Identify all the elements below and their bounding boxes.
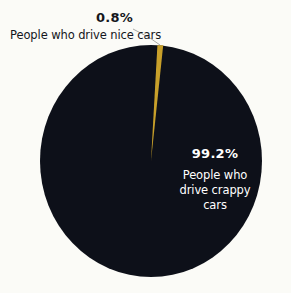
inner-description-line-2: drive crappy (160, 183, 270, 198)
inner-description-line-3: cars (160, 198, 270, 213)
callout-description: People who drive nice cars (10, 28, 161, 42)
callout-percent-value: 0.8% (96, 10, 133, 25)
inner-description: People who drive crappy cars (160, 168, 270, 213)
inner-percent-value: 99.2% (160, 146, 270, 162)
pie-chart-figure: 0.8% People who drive nice cars 99.2% Pe… (0, 0, 291, 293)
inner-label-crappy-cars: 99.2% People who drive crappy cars (160, 146, 270, 213)
inner-description-line-1: People who (160, 168, 270, 183)
